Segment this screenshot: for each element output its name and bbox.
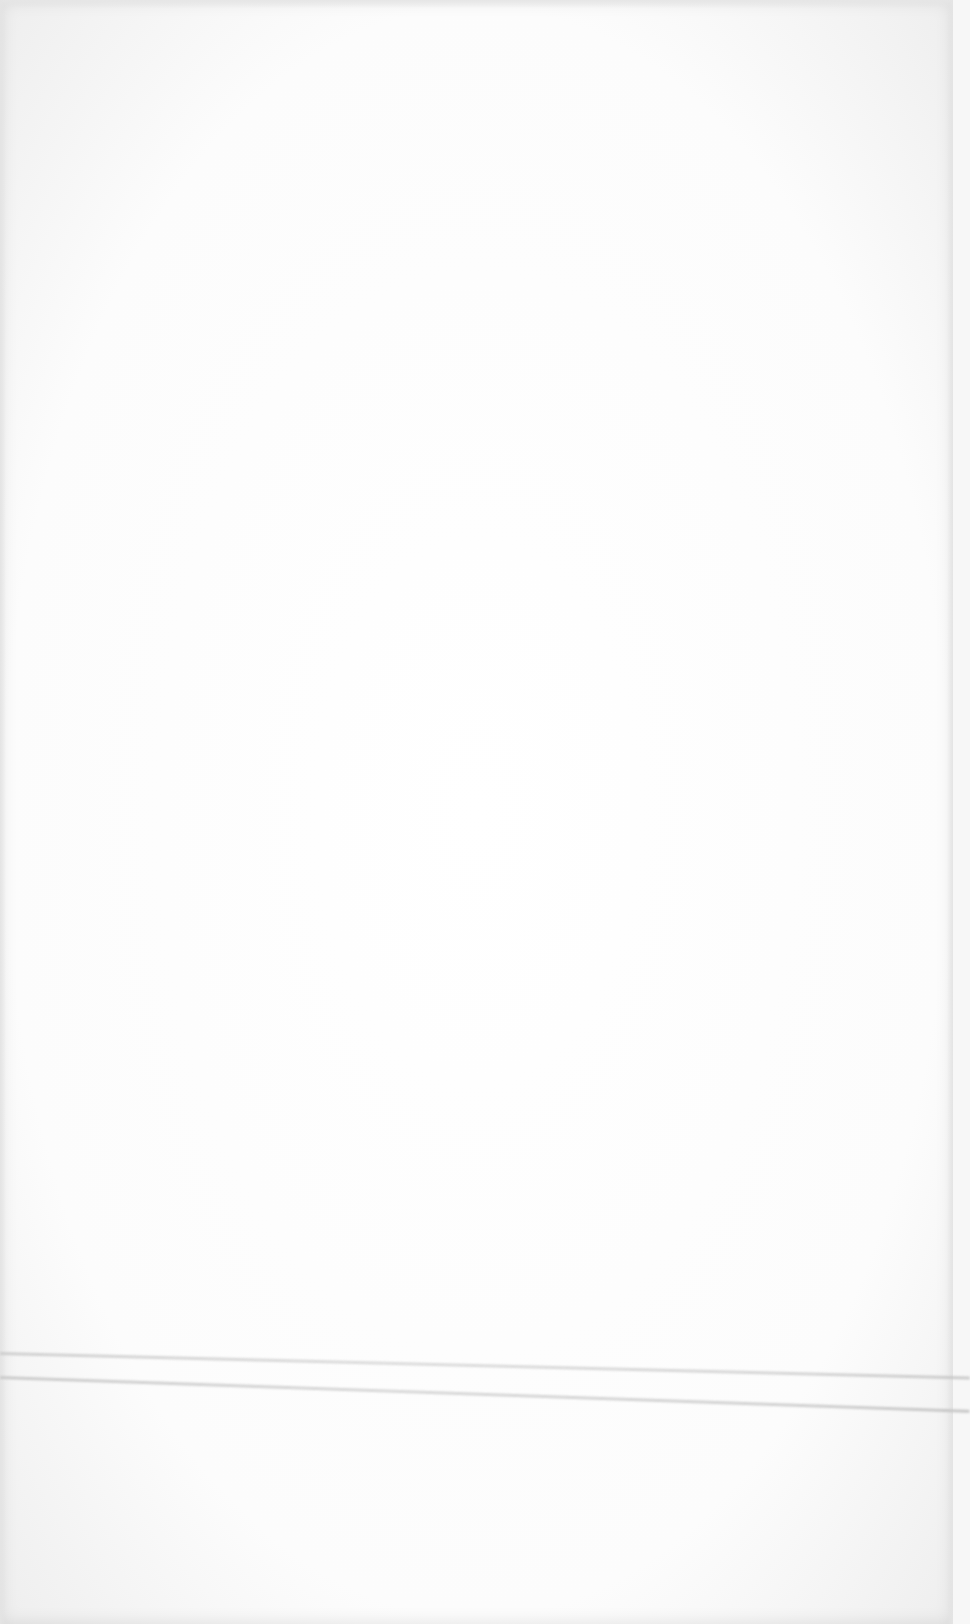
crease-line-lower	[0, 1376, 969, 1413]
page-top-shadow	[0, 0, 953, 8]
page-right-shadow	[947, 0, 953, 1624]
page-left-shadow	[0, 0, 6, 1624]
crease-line-upper	[0, 1352, 970, 1380]
